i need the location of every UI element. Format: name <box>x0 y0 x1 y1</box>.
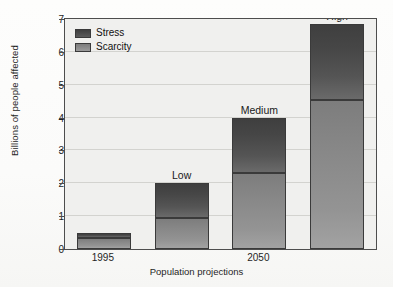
legend-swatch-scarcity-icon <box>75 43 91 52</box>
legend-item-stress: Stress <box>75 27 132 39</box>
y-tick-label-5: 5 <box>44 81 64 91</box>
chart-figure: Billions of people affected 01234567 Low… <box>0 0 393 287</box>
bar-segment-scarcity-low[interactable] <box>155 218 209 249</box>
y-tick-label-3: 3 <box>44 146 64 156</box>
bar-segment-scarcity-medium[interactable] <box>232 173 286 249</box>
bar-segment-stress-high[interactable] <box>310 24 364 100</box>
y-tick-label-1: 1 <box>44 212 64 222</box>
x-axis-title: Population projections <box>0 266 393 277</box>
legend-swatch-stress-icon <box>75 29 91 38</box>
plot-area: LowMediumHigh Stress Scarcity <box>64 18 377 250</box>
bar-group-medium[interactable]: Medium <box>232 19 286 249</box>
y-tick-label-2: 2 <box>44 179 64 189</box>
bar-segment-scarcity-high[interactable] <box>310 100 364 250</box>
bar-group-high[interactable]: High <box>310 19 364 249</box>
bar-segment-stress-low[interactable] <box>155 183 209 218</box>
bar-annotation-medium: Medium <box>241 104 278 116</box>
bar-group-low[interactable]: Low <box>155 19 209 249</box>
y-axis-title: Billions of people affected <box>9 1 20 201</box>
y-tick-label-6: 6 <box>44 48 64 58</box>
y-axis-ticks: 01234567 <box>36 18 64 250</box>
y-tick-label-0: 0 <box>44 245 64 255</box>
legend-label-scarcity: Scarcity <box>96 42 132 52</box>
x-tick-label-2050: 2050 <box>247 252 269 263</box>
bar-segment-stress-1995[interactable] <box>77 233 131 238</box>
bar-segment-scarcity-1995[interactable] <box>77 238 131 250</box>
bar-annotation-high: High <box>326 18 348 22</box>
bar-annotation-low: Low <box>172 169 191 181</box>
chart-legend: Stress Scarcity <box>75 27 132 55</box>
y-tick-label-7: 7 <box>44 15 64 25</box>
x-tick-label-1995: 1995 <box>92 252 114 263</box>
legend-item-scarcity: Scarcity <box>75 41 132 53</box>
legend-label-stress: Stress <box>96 28 124 38</box>
y-tick-label-4: 4 <box>44 114 64 124</box>
bar-segment-stress-medium[interactable] <box>232 118 286 174</box>
